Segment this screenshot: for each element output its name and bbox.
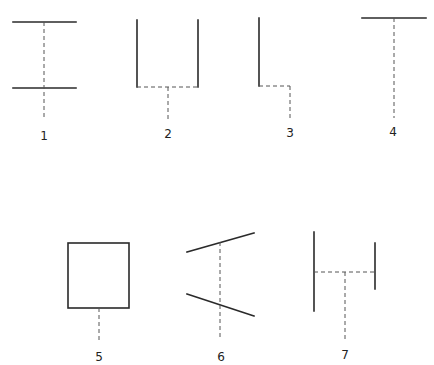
fig2-label: 2 — [164, 127, 172, 141]
figure-1: 1 — [13, 22, 76, 143]
figure-canvas: 1 2 3 4 5 — [0, 0, 434, 365]
fig5-label: 5 — [95, 350, 103, 364]
figure-2: 2 — [137, 20, 198, 141]
figure-5: 5 — [68, 243, 129, 364]
fig6-label: 6 — [217, 350, 225, 364]
fig4-label: 4 — [389, 125, 397, 139]
figure-3: 3 — [259, 18, 294, 140]
fig1-label: 1 — [40, 129, 48, 143]
figure-7: 7 — [314, 232, 375, 362]
fig5-square — [68, 243, 129, 308]
figure-4: 4 — [362, 18, 426, 139]
diagram-svg: 1 2 3 4 5 — [0, 0, 434, 365]
figure-6: 6 — [187, 233, 254, 364]
fig3-label: 3 — [286, 126, 294, 140]
fig7-label: 7 — [341, 348, 349, 362]
